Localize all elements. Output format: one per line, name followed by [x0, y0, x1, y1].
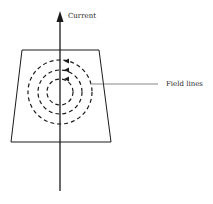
arrowhead-icon [64, 68, 69, 73]
plane [11, 50, 111, 142]
field-lines-label: Field lines [166, 80, 203, 88]
arrowhead-icon [64, 59, 69, 64]
arrowhead-icon [64, 77, 69, 82]
field-diagram: Current Field lines [0, 0, 213, 204]
current-label: Current [68, 12, 96, 20]
field-direction-arrows [64, 59, 69, 82]
diagram-canvas: Current Field lines [0, 0, 213, 204]
current-arrowhead-icon [57, 11, 64, 22]
